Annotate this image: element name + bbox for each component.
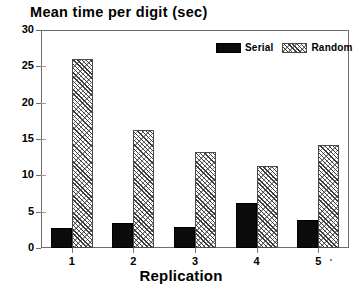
x-axis-tick-mark xyxy=(195,248,196,253)
y-axis-inner-tick xyxy=(41,212,46,213)
bar-serial-rep-2 xyxy=(112,223,133,248)
chart-title: Mean time per digit (sec) xyxy=(30,3,208,21)
y-axis-tick-label: 0 xyxy=(28,241,34,254)
bar-serial-rep-1 xyxy=(51,228,72,248)
legend-swatch-random-icon xyxy=(282,43,307,53)
y-axis-tick-label: 25 xyxy=(22,59,34,72)
legend-label-serial: Serial xyxy=(245,42,273,54)
y-axis: 051015202530 xyxy=(0,0,41,292)
x-axis-tick-mark xyxy=(72,248,73,253)
bar-serial-rep-3 xyxy=(174,227,195,248)
y-axis-tick-mark xyxy=(36,30,41,31)
y-axis-inner-tick xyxy=(41,175,46,176)
y-axis-tick-label: 5 xyxy=(28,205,34,218)
x-axis-tick-mark xyxy=(257,248,258,253)
x-axis-title: Replication xyxy=(0,266,362,285)
y-axis-tick-label: 10 xyxy=(22,168,34,181)
bar-random-rep-4 xyxy=(257,166,278,248)
y-axis-inner-tick xyxy=(41,103,46,104)
bar-serial-rep-5 xyxy=(297,220,318,248)
y-axis-tick-label: 15 xyxy=(22,132,34,145)
legend-entry-random: Random xyxy=(282,42,352,54)
corner-speck-artifact xyxy=(330,259,332,261)
y-axis-inner-tick xyxy=(41,66,46,67)
bar-chart: Mean time per digit (sec) 051015202530 1… xyxy=(0,0,362,292)
chart-legend: Serial Random xyxy=(216,42,353,54)
bar-random-rep-1 xyxy=(72,59,93,248)
x-axis-tick-mark xyxy=(318,248,319,253)
y-axis-inner-tick xyxy=(41,139,46,140)
x-axis-tick-mark xyxy=(133,248,134,253)
y-axis-tick-label: 30 xyxy=(22,23,34,36)
legend-label-random: Random xyxy=(311,42,352,54)
bar-serial-rep-4 xyxy=(236,203,257,248)
y-axis-tick-label: 20 xyxy=(22,96,34,109)
y-axis-tick-mark xyxy=(36,248,41,249)
bar-random-rep-5 xyxy=(318,145,339,248)
legend-entry-serial: Serial xyxy=(216,42,273,54)
bar-random-rep-2 xyxy=(133,130,154,248)
legend-swatch-serial-icon xyxy=(216,43,241,53)
bar-random-rep-3 xyxy=(195,152,216,248)
